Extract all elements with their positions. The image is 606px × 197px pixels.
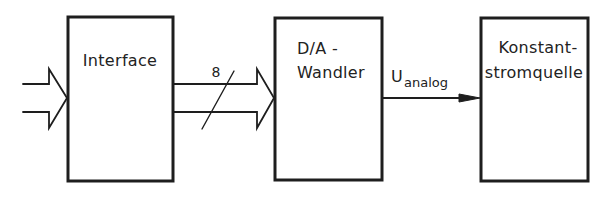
input-bus-arrow [23,69,67,128]
current-source-block: Konstant- stromquelle [481,18,588,181]
interface-block: Interface [68,17,173,181]
current-source-label-line2: stromquelle [485,63,583,82]
block-diagram: Interface 8 D/A - Wandler Uanalog Konsta… [0,0,606,197]
analog-signal-arrow: Uanalog [382,67,480,102]
current-source-label-line1: Konstant- [499,38,578,57]
interface-label: Interface [83,51,157,70]
data-bus-arrow: 8 [173,64,274,129]
da-converter-label-line2: Wandler [297,63,365,82]
bus-width-label: 8 [212,64,221,80]
analog-voltage-label: Uanalog [391,67,448,90]
arrowhead-icon [459,94,480,102]
da-converter-label-line1: D/A - [297,39,338,58]
da-converter-block: D/A - Wandler [275,18,382,180]
